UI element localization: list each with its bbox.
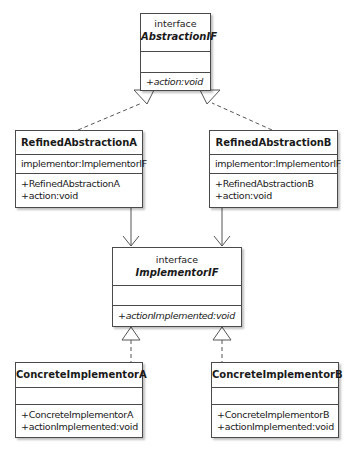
operation: +ConcreteImplementorB (217, 409, 333, 421)
class-name: RefinedAbstractionA (16, 134, 142, 149)
realization-arrowhead-icon (200, 90, 220, 104)
operation: +RefinedAbstractionA (21, 178, 137, 190)
class-abstraction-if[interactable]: interface AbstractionIF +action:void (140, 13, 211, 91)
class-name: RefinedAbstractionB (210, 134, 337, 149)
class-refined-abstraction-a[interactable]: RefinedAbstractionA implementor:Implemen… (15, 130, 143, 208)
operation: +actionImplemented:void (21, 421, 137, 433)
stereotype-label: interface (141, 18, 210, 30)
stereotype-label: interface (113, 254, 241, 266)
attributes-section: implementor:ImplementorIF (16, 154, 142, 173)
realization-line-refined-a (78, 103, 142, 130)
attributes-section (113, 285, 241, 305)
class-name: ConcreteImplementorA (16, 367, 142, 381)
class-concrete-implementor-a[interactable]: ConcreteImplementorA +ConcreteImplemento… (15, 362, 143, 438)
operations-section: +actionImplemented:void (113, 305, 241, 326)
class-header: RefinedAbstractionA (16, 131, 142, 154)
attributes-section (141, 51, 210, 72)
class-name: ImplementorIF (113, 266, 241, 279)
class-concrete-implementor-b[interactable]: ConcreteImplementorB +ConcreteImplemento… (211, 362, 339, 438)
attribute: implementor:ImplementorIF (215, 158, 332, 170)
operations-section: +RefinedAbstractionA +action:void (16, 173, 142, 207)
class-name: AbstractionIF (141, 30, 210, 43)
operations-section: +ConcreteImplementorA +actionImplemented… (16, 404, 142, 437)
operation: +action:void (146, 76, 205, 88)
operations-section: +RefinedAbstractionB +action:void (210, 173, 337, 207)
operations-section: +ConcreteImplementorB +actionImplemented… (212, 404, 338, 437)
attribute: implementor:ImplementorIF (21, 158, 137, 170)
operation: +actionImplemented:void (118, 310, 236, 322)
operation: +ConcreteImplementorA (21, 409, 137, 421)
class-refined-abstraction-b[interactable]: RefinedAbstractionB implementor:Implemen… (209, 130, 338, 208)
operation: +action:void (21, 190, 137, 202)
class-header: RefinedAbstractionB (210, 131, 337, 154)
realization-arrowhead-icon (122, 327, 140, 340)
attributes-section (16, 387, 142, 404)
class-implementor-if[interactable]: interface ImplementorIF +actionImplement… (112, 247, 242, 327)
class-header: ConcreteImplementorA (16, 363, 142, 387)
operation: +actionImplemented:void (217, 421, 333, 433)
class-header: interface AbstractionIF (141, 14, 210, 51)
class-header: interface ImplementorIF (113, 248, 241, 285)
class-header: ConcreteImplementorB (212, 363, 338, 387)
realization-arrowhead-icon (134, 90, 154, 104)
operations-section: +action:void (141, 72, 210, 90)
attributes-section: implementor:ImplementorIF (210, 154, 337, 173)
class-name: ConcreteImplementorB (212, 367, 338, 381)
operation: +action:void (215, 190, 332, 202)
operation: +RefinedAbstractionB (215, 178, 332, 190)
attributes-section (212, 387, 338, 404)
realization-line-refined-b (212, 103, 272, 130)
realization-arrowhead-icon (213, 327, 231, 340)
